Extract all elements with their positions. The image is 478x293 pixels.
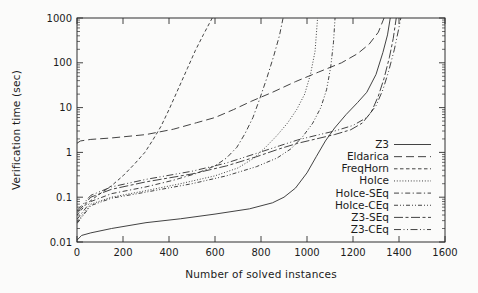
x-tick-label: 1400 [386,247,411,258]
x-tick-label: 200 [113,247,132,258]
x-tick-label: 800 [251,247,270,258]
plot-canvas: 020040060080010001200140016000.010.11101… [0,0,478,293]
legend-label-hoice-seq: HoIce-SEq [336,187,389,199]
y-axis-label: Verification time (sec) [10,60,22,200]
x-tick-label: 1600 [432,247,457,258]
verification-time-chart: Verification time (sec) 0200400600800100… [0,0,478,293]
legend-label-freqhorn: FreqHorn [341,162,389,174]
y-tick-label: 0.01 [50,237,72,248]
x-axis-label: Number of solved instances [77,268,445,280]
series-curve-z3-seq [77,18,396,213]
x-tick-label: 1200 [340,247,365,258]
series-curve-z3-ceq [77,18,401,211]
y-tick-label: 0.1 [56,192,72,203]
x-tick-label: 600 [205,247,224,258]
plot-border [77,18,445,242]
series-curve-hoice [77,18,318,222]
y-tick-label: 10 [59,102,72,113]
legend-label-z3: Z3 [375,138,389,150]
series-curve-freqhorn [77,18,212,215]
y-tick-label: 1 [66,147,72,158]
x-tick-label: 400 [159,247,178,258]
y-tick-label: 1000 [47,13,72,24]
legend-label-eldarica: Eldarica [347,150,389,162]
y-tick-label: 100 [53,57,72,68]
legend-label-hoice-ceq: HoIce-CEq [335,199,389,211]
legend-label-hoice: HoIce [359,174,389,186]
legend-label-z3-seq: Z3-SEq [351,211,389,223]
legend-label-z3-ceq: Z3-CEq [351,223,389,235]
x-tick-label: 0 [74,247,80,258]
x-tick-label: 1000 [294,247,319,258]
series-curve-hoice-seq [77,18,283,219]
